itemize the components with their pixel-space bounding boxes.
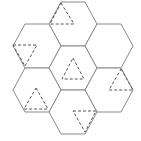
hexagon-diagram [0,0,141,141]
